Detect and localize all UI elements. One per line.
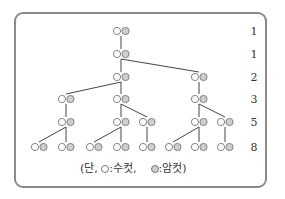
rabbit-pair (86, 143, 102, 150)
tree-edge (39, 127, 66, 142)
female-circle-icon (148, 143, 155, 150)
female-circle-icon (200, 73, 207, 80)
male-circle-icon (58, 118, 65, 125)
male-circle-icon (113, 50, 120, 57)
count-gen-3: 2 (248, 71, 260, 84)
female-circle-icon (122, 118, 129, 125)
male-circle-icon (191, 95, 198, 102)
rabbit-pair (113, 27, 129, 34)
rabbit-pair (113, 73, 129, 80)
female-circle-icon (226, 143, 233, 150)
male-circle-icon (113, 73, 120, 80)
male-circle-icon (165, 143, 172, 150)
rabbit-pair (217, 118, 233, 125)
male-circle-icon (113, 27, 120, 34)
female-circle-icon (200, 95, 207, 102)
male-circle-icon (58, 143, 65, 150)
female-circle-icon (67, 118, 74, 125)
male-circle-icon (217, 118, 224, 125)
tree-edge (173, 127, 199, 142)
tree-edge (94, 127, 121, 142)
male-circle-icon (31, 143, 38, 150)
female-circle-icon (148, 118, 155, 125)
female-circle-icon (151, 165, 159, 173)
rabbit-pair (165, 143, 181, 150)
rabbit-pair (191, 118, 207, 125)
female-circle-icon (122, 27, 129, 34)
rabbit-pair (113, 50, 129, 57)
rabbit-pair (58, 95, 74, 102)
count-gen-5: 5 (248, 116, 260, 129)
female-circle-icon (122, 50, 129, 57)
legend: (단, :수컷, :암컷) (80, 159, 187, 175)
rabbit-pair (113, 118, 129, 125)
count-gen-6: 8 (248, 141, 260, 154)
male-circle-icon (191, 73, 198, 80)
male-circle-icon (58, 95, 65, 102)
male-circle-icon (191, 118, 198, 125)
female-circle-icon (122, 95, 129, 102)
female-circle-icon (174, 143, 181, 150)
count-gen-2: 1 (248, 48, 260, 61)
rabbit-pair (139, 143, 155, 150)
male-circle-icon (113, 143, 120, 150)
male-circle-icon (217, 143, 224, 150)
female-circle-icon (122, 73, 129, 80)
rabbit-pair (191, 73, 207, 80)
count-gen-4: 3 (248, 93, 260, 106)
rabbit-pair (58, 118, 74, 125)
male-circle-icon (113, 95, 120, 102)
female-circle-icon (40, 143, 47, 150)
female-circle-icon (67, 143, 74, 150)
tree-edge (199, 104, 225, 117)
female-circle-icon (200, 118, 207, 125)
male-circle-icon (191, 143, 198, 150)
rabbit-pair (217, 143, 233, 150)
rabbit-pair (191, 95, 207, 102)
rabbit-pair (58, 143, 74, 150)
female-circle-icon (67, 95, 74, 102)
rabbit-pair (113, 143, 129, 150)
tree-edge (121, 59, 199, 72)
female-circle-icon (226, 118, 233, 125)
tree-edge (66, 82, 121, 94)
male-circle-icon (113, 118, 120, 125)
legend-female-label: :암컷) (159, 162, 187, 175)
female-circle-icon (122, 143, 129, 150)
male-circle-icon (139, 143, 146, 150)
rabbit-pair (31, 143, 47, 150)
rabbit-pair (191, 143, 207, 150)
legend-male-label: :수컷, (109, 162, 136, 175)
legend-prefix: (단, (80, 162, 98, 175)
male-circle-icon (139, 118, 146, 125)
male-circle-icon (86, 143, 93, 150)
count-gen-1: 1 (248, 25, 260, 38)
female-circle-icon (200, 143, 207, 150)
rabbit-pair (113, 95, 129, 102)
rabbit-pair (139, 118, 155, 125)
female-circle-icon (95, 143, 102, 150)
tree-edge (121, 104, 147, 117)
